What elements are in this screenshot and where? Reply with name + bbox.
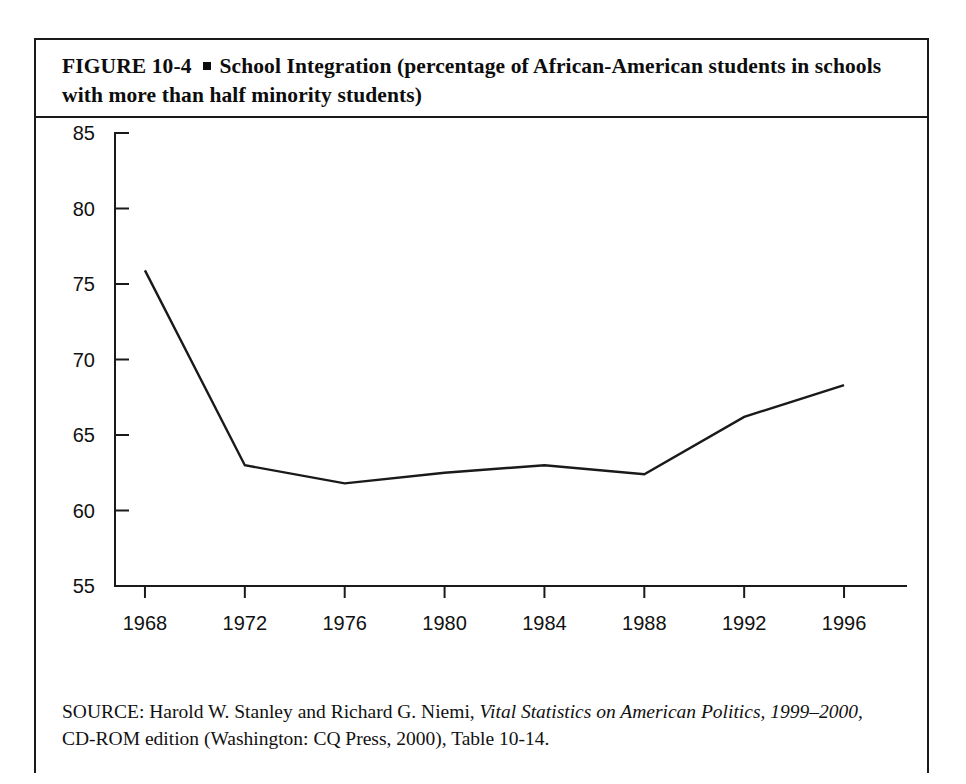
source-work-years: 1999–2000, <box>770 701 863 722</box>
y-tick-label-65: 65 <box>73 424 95 446</box>
y-axis-tick-labels: 55606570758085 <box>73 122 95 597</box>
source-prefix: SOURCE: Harold W. Stanley and Richard G.… <box>62 701 475 722</box>
chart-plot-area: 55606570758085 1968197219761980198419881… <box>36 118 927 698</box>
x-tick-label-1976: 1976 <box>322 612 367 634</box>
x-tick-label-1996: 1996 <box>822 612 867 634</box>
figure-title-band: FIGURE 10-4School Integration (percentag… <box>36 40 927 118</box>
x-tick-label-1980: 1980 <box>422 612 467 634</box>
line-chart: 55606570758085 1968197219761980198419881… <box>36 118 929 698</box>
page-title: FIGURE 10-4School Integration (percentag… <box>62 52 901 110</box>
source-suffix: CD-ROM edition (Washington: CQ Press, 20… <box>62 728 549 749</box>
x-tick-label-1992: 1992 <box>722 612 767 634</box>
y-tick-label-60: 60 <box>73 500 95 522</box>
source-work-title: Vital Statistics on American Politics, <box>480 701 766 722</box>
x-tick-label-1984: 1984 <box>522 612 567 634</box>
data-series-line <box>145 270 844 483</box>
source-text: SOURCE: Harold W. Stanley and Richard G.… <box>62 698 901 752</box>
x-tick-label-1988: 1988 <box>622 612 667 634</box>
square-bullet-icon <box>203 62 211 70</box>
source-note: SOURCE: Harold W. Stanley and Richard G.… <box>36 698 927 752</box>
chart-axes <box>115 133 907 586</box>
x-axis-tick-labels: 19681972197619801984198819921996 <box>123 612 867 634</box>
x-axis-tick-marks <box>145 586 844 598</box>
y-tick-label-55: 55 <box>73 575 95 597</box>
y-tick-label-75: 75 <box>73 273 95 295</box>
x-tick-label-1972: 1972 <box>223 612 268 634</box>
y-axis-tick-marks <box>115 209 129 511</box>
figure-title-line-1: School Integration (percentage of Africa… <box>220 54 703 78</box>
y-tick-label-70: 70 <box>73 349 95 371</box>
y-tick-label-80: 80 <box>73 198 95 220</box>
x-tick-label-1968: 1968 <box>123 612 168 634</box>
y-tick-label-85: 85 <box>73 122 95 144</box>
figure-label: FIGURE 10-4 <box>62 54 192 78</box>
figure-container: FIGURE 10-4School Integration (percentag… <box>34 38 929 773</box>
